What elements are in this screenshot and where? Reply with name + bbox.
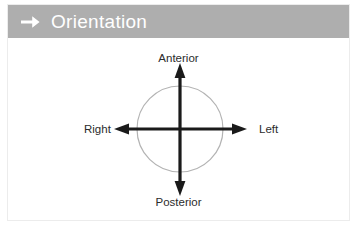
page-title: Orientation — [51, 12, 147, 31]
anterior-arrowhead — [175, 63, 186, 78]
right-arrowhead — [114, 124, 129, 135]
slide-header-bar: Orientation — [8, 5, 349, 38]
orientation-diagram: Anterior Posterior Right Left — [8, 38, 349, 220]
orientation-diagram-graphic — [8, 38, 349, 220]
label-anterior: Anterior — [8, 53, 349, 65]
label-anterior-text: Anterior — [158, 52, 198, 64]
label-left: Left — [259, 124, 278, 136]
label-posterior: Posterior — [8, 197, 349, 209]
posterior-arrowhead — [175, 181, 186, 196]
label-right: Right — [84, 124, 111, 136]
slide-screenshot: Orientation Anterior Posterior Right Lef… — [0, 0, 357, 228]
label-posterior-text: Posterior — [155, 196, 201, 208]
left-arrowhead — [232, 124, 247, 135]
right-arrow-icon — [21, 15, 40, 29]
